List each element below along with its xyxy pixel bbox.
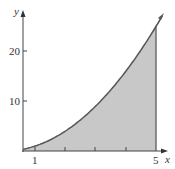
y-tick-label-20: 20 bbox=[9, 45, 21, 57]
curve-arrow-icon bbox=[158, 13, 164, 20]
x-tick-label-5: 5 bbox=[153, 154, 159, 166]
shaded-area bbox=[23, 26, 156, 151]
y-tick-label-10: 10 bbox=[9, 95, 21, 107]
x-tick-label-1: 1 bbox=[32, 154, 38, 166]
x-axis-label: x bbox=[164, 153, 170, 165]
y-axis-arrow-icon bbox=[21, 10, 26, 17]
area-under-curve-chart: 1 5 x 10 20 y bbox=[0, 0, 175, 169]
y-axis-label: y bbox=[13, 5, 19, 17]
y-ticks bbox=[23, 51, 27, 101]
